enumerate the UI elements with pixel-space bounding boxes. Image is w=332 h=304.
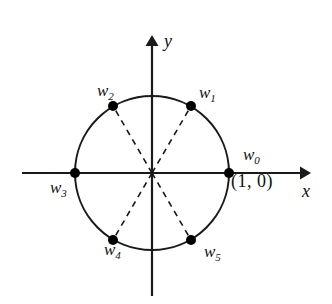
x-axis-arrowhead <box>300 167 311 180</box>
dashed-radius-w5 <box>152 173 191 240</box>
point-w2 <box>108 101 118 111</box>
label-w5: w5 <box>204 243 221 263</box>
dashed-radius-w4 <box>113 173 152 240</box>
point-w3 <box>70 168 80 178</box>
label-w4: w4 <box>104 241 121 261</box>
annotation-point-one-zero: (1, 0) <box>231 172 273 190</box>
y-axis-label: y <box>164 32 172 50</box>
label-w0: w0 <box>243 146 260 166</box>
label-w3: w3 <box>50 179 67 199</box>
dashed-radius-w1 <box>152 106 191 173</box>
roots-of-unity-figure: w0 w1 w2 w3 w4 w5 (1, 0) x y <box>0 0 332 304</box>
label-w1: w1 <box>199 84 216 104</box>
x-axis-label: x <box>302 182 310 200</box>
point-w5 <box>186 235 196 245</box>
label-w2: w2 <box>97 82 114 102</box>
point-w1 <box>186 101 196 111</box>
dashed-radius-w2 <box>113 106 152 173</box>
y-axis-arrowhead <box>146 35 159 46</box>
